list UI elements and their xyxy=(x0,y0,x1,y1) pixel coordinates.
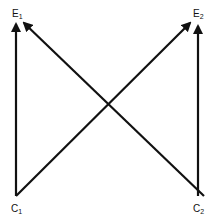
edge-c1-e2 xyxy=(16,23,190,196)
node-label-c1: C1 xyxy=(11,204,22,215)
node-label-e1: E1 xyxy=(12,9,23,20)
arrow-diagram xyxy=(0,0,216,224)
node-label-c2: C2 xyxy=(193,204,204,215)
node-label-e2: E2 xyxy=(193,9,204,20)
edge-c2-e1 xyxy=(24,23,204,196)
